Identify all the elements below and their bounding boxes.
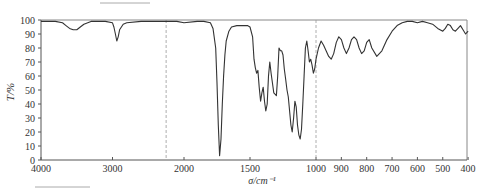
x-tick-label: 4000 [31,163,51,174]
y-tick-label: 100 [20,15,35,26]
x-tick-label: 1000 [306,163,326,174]
ir-spectrum-chart: 0102030405060708090100400030002000150010… [0,0,486,192]
x-tick-label: 2000 [174,163,194,174]
x-axis-label: σ/cm⁻¹ [248,175,275,186]
y-tick-label: 10 [25,141,35,152]
x-tick-label: 800 [359,163,374,174]
y-tick-label: 50 [25,85,35,96]
x-tick-label: 3000 [103,163,123,174]
x-tick-label: 900 [334,163,349,174]
x-tick-label: 700 [385,163,400,174]
y-tick-label: 40 [25,99,35,110]
y-tick-label: 70 [25,57,35,68]
y-tick-label: 30 [25,113,35,124]
y-tick-label: 20 [25,127,35,138]
x-tick-label: 1500 [240,163,260,174]
y-axis-label: T/% [4,83,16,101]
y-tick-label: 60 [25,71,35,82]
y-tick-label: 90 [25,29,35,40]
x-tick-label: 600 [410,163,425,174]
x-tick-label: 400 [461,163,476,174]
x-tick-label: 500 [435,163,450,174]
dashed-reference-lines [166,20,316,160]
chart-svg: 0102030405060708090100400030002000150010… [0,0,486,192]
axes: 0102030405060708090100400030002000150010… [20,15,476,175]
y-tick-label: 80 [25,43,35,54]
decorative-lines [35,3,150,187]
spectrum-line [41,21,468,155]
